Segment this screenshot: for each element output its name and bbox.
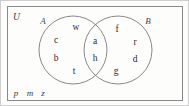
set-b-label: B: [145, 17, 151, 26]
element-m: m: [27, 89, 34, 98]
element-b: b: [54, 54, 59, 64]
element-g: g: [114, 67, 119, 77]
element-h: h: [93, 54, 98, 64]
element-r: r: [133, 38, 136, 48]
element-p: p: [14, 89, 19, 98]
element-d: d: [133, 55, 138, 65]
element-c: c: [54, 36, 58, 46]
universal-set-label: U: [13, 13, 20, 23]
element-f: f: [115, 25, 118, 35]
set-a-label: A: [40, 17, 46, 26]
element-z: z: [41, 89, 45, 98]
element-a: a: [93, 37, 97, 47]
element-w: w: [73, 23, 80, 33]
element-t: t: [73, 67, 76, 77]
venn-diagram-figure: U A B w c b t a h f r d g p m z: [0, 0, 189, 106]
